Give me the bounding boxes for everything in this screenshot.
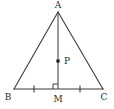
label-C: C — [101, 92, 108, 102]
right-angle-icon — [53, 84, 58, 89]
figure-canvas: A B C M P — [0, 0, 114, 109]
label-M: M — [53, 94, 62, 104]
side-AB-line — [14, 12, 58, 89]
geometry-figure: A B C M P — [0, 0, 114, 109]
label-P: P — [64, 56, 70, 66]
label-A: A — [54, 0, 62, 10]
point-P-dot — [56, 59, 60, 63]
side-AC-line — [58, 12, 103, 89]
label-B: B — [5, 92, 12, 102]
